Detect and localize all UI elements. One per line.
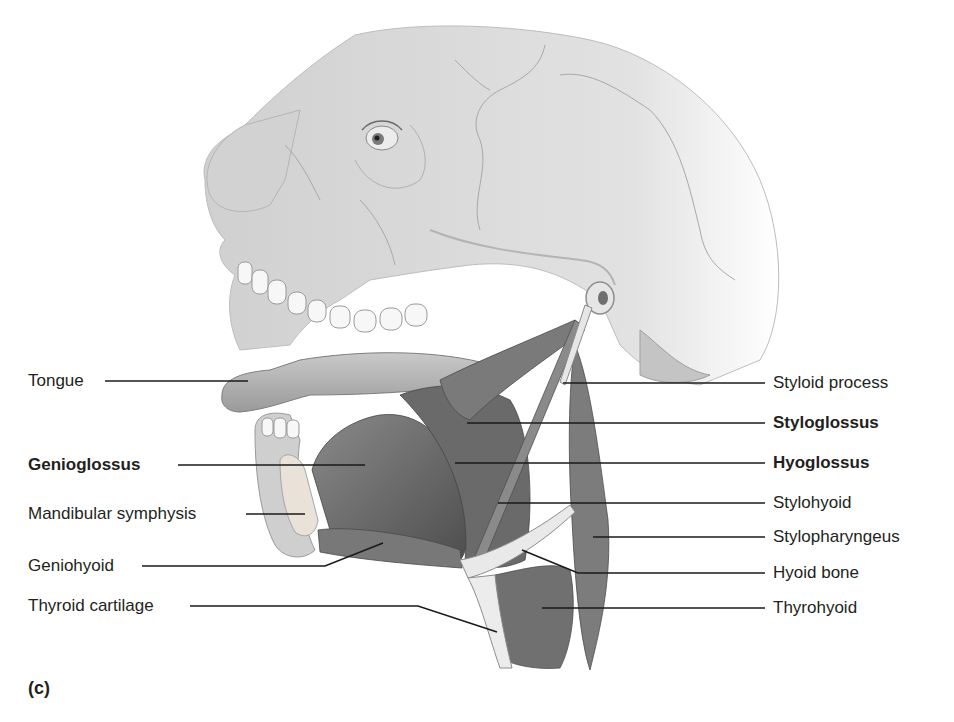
label-genioglossus: Genioglossus bbox=[28, 455, 140, 475]
label-hyoid-bone: Hyoid bone bbox=[773, 563, 859, 583]
label-thyrohyoid: Thyrohyoid bbox=[773, 598, 857, 618]
mandible bbox=[255, 413, 318, 557]
label-tongue: Tongue bbox=[28, 371, 84, 391]
label-mandibular-symphysis: Mandibular symphysis bbox=[28, 504, 196, 524]
label-thyroid-cartilage: Thyroid cartilage bbox=[28, 596, 154, 616]
label-stylopharyngeus: Stylopharyngeus bbox=[773, 527, 900, 547]
label-styloglossus: Styloglossus bbox=[773, 413, 879, 433]
label-hyoglossus: Hyoglossus bbox=[773, 453, 869, 473]
label-styloid-process: Styloid process bbox=[773, 373, 888, 393]
skull bbox=[204, 26, 779, 385]
label-geniohyoid: Geniohyoid bbox=[28, 556, 114, 576]
label-stylohyoid: Stylohyoid bbox=[773, 493, 851, 513]
stylopharyngeus-muscle bbox=[569, 345, 608, 670]
panel-letter: (c) bbox=[28, 678, 50, 699]
